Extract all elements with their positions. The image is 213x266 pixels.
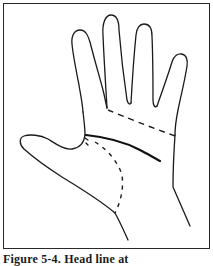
life-line bbox=[95, 142, 123, 213]
figure-caption: Figure 5-4. Head line at bbox=[3, 252, 129, 266]
hand-outline bbox=[20, 15, 190, 240]
index-finger bbox=[72, 30, 107, 112]
ring-finger bbox=[131, 24, 157, 107]
thumb-crease bbox=[85, 138, 88, 145]
heart-line bbox=[108, 110, 175, 136]
little-finger bbox=[157, 54, 187, 135]
palm-left-edge bbox=[83, 112, 85, 135]
head-line bbox=[86, 135, 160, 161]
figure-frame bbox=[4, 4, 210, 249]
middle-finger bbox=[103, 15, 131, 108]
palm-right-edge bbox=[173, 135, 190, 226]
thumb bbox=[20, 135, 115, 213]
wrist-left-edge bbox=[115, 213, 128, 240]
